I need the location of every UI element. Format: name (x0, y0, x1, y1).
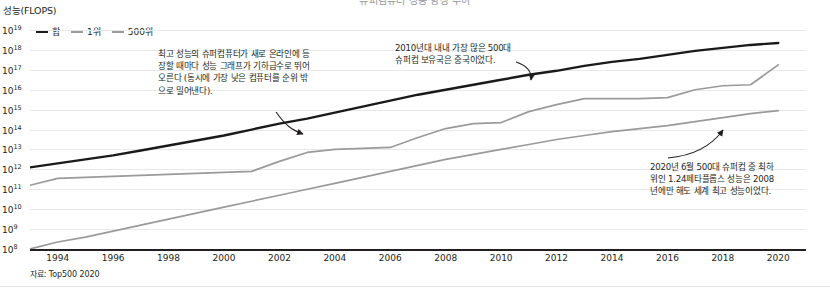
annotation-lowest-2020-vs-2008: 2020년 6월 500대 슈퍼컴 중 최하위인 1.24페타플롭스 성능은 2… (650, 161, 780, 198)
y-tick-label: 1010 (2, 203, 22, 215)
y-tick-label: 1011 (2, 183, 22, 195)
gridline (30, 90, 806, 91)
y-tick-label: 109 (2, 223, 18, 235)
x-tick-label: 2004 (323, 253, 346, 263)
y-tick-label: 108 (2, 243, 18, 255)
bottom-divider (0, 286, 830, 287)
x-tick-label: 2006 (379, 253, 402, 263)
y-axis-label: 성능(FLOPS) (3, 3, 56, 17)
gridline (30, 110, 806, 111)
x-tick-label: 2002 (268, 253, 291, 263)
gridline (30, 30, 806, 31)
chart-figure: 슈퍼컴퓨터 성능 향상 추이 성능(FLOPS) 합 1위 500위 10191… (0, 0, 830, 288)
x-tick-label: 2008 (434, 253, 457, 263)
chart-title: 슈퍼컴퓨터 성능 향상 추이 (0, 0, 830, 7)
gridline (30, 70, 806, 71)
annotation-china-most-supercomputers: 2010년대 내내 가장 많은 500대 슈퍼컴 보유국은 중국이었다. (395, 42, 521, 66)
x-tick-label: 2018 (711, 253, 734, 263)
annotation-supercomputer-jump: 최고 성능의 슈퍼컴퓨터가 새로 온라인에 등장할 때마다 성능 그래프가 기하… (158, 48, 310, 97)
y-tick-label: 1018 (2, 44, 22, 56)
gridline (30, 209, 806, 210)
x-tick-label: 2010 (490, 253, 513, 263)
x-tick-label: 2014 (601, 253, 624, 263)
x-tick-label: 1996 (102, 253, 125, 263)
x-tick-label: 2000 (213, 253, 236, 263)
gridline (30, 149, 806, 150)
x-tick-label: 1994 (46, 253, 69, 263)
x-tick-label: 2012 (545, 253, 568, 263)
x-tick-label: 1998 (157, 253, 180, 263)
y-tick-label: 1012 (2, 163, 22, 175)
x-tick-label: 2016 (656, 253, 679, 263)
source-note: 자료: Top500 2020 (30, 268, 99, 279)
y-tick-label: 1014 (2, 124, 22, 136)
y-tick-label: 1016 (2, 84, 22, 96)
y-tick-label: 1015 (2, 104, 22, 116)
x-axis-line (30, 249, 806, 251)
y-tick-label: 1013 (2, 143, 22, 155)
y-tick-label: 1017 (2, 64, 22, 76)
gridline (30, 229, 806, 230)
x-tick-label: 2020 (767, 253, 790, 263)
y-tick-label: 1019 (2, 24, 22, 36)
gridline (30, 130, 806, 131)
